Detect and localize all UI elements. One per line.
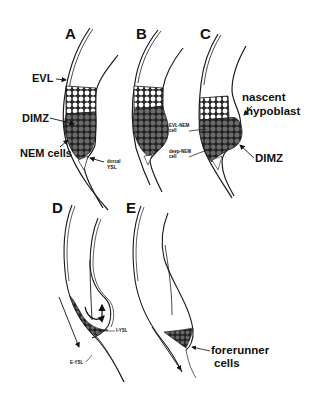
label-dimz-c: DIMZ: [255, 153, 283, 165]
label-dorsal-ysl: dorsal YSL: [107, 160, 121, 170]
label-nascent: nascent: [242, 92, 285, 104]
label-evl-nem-line2: cell: [169, 129, 189, 134]
panel-d: [59, 205, 124, 382]
panel-letter-e: E: [126, 200, 136, 215]
diagram-drawing: [0, 0, 310, 397]
figure: A B C D E EVL DIMZ NEM cells dorsal YSL …: [0, 0, 310, 397]
panel-letter-d: D: [52, 200, 63, 215]
label-evl: EVL: [32, 73, 53, 84]
panel-b: [132, 30, 183, 192]
label-cells: cells: [214, 358, 240, 370]
panel-c: [189, 34, 254, 198]
panel-letter-b: B: [136, 26, 147, 41]
panel-a: [50, 28, 118, 210]
label-forerunner: forerunner: [211, 345, 269, 357]
panel-letter-a: A: [65, 26, 76, 41]
label-deep-nem-line2: cell: [169, 155, 191, 160]
label-dimz-a: DIMZ: [22, 113, 49, 124]
label-i-ysl: I-YSL: [116, 329, 128, 334]
panel-e: [133, 206, 210, 378]
panel-letter-c: C: [200, 26, 211, 41]
label-nem-cells: NEM cells: [20, 148, 72, 159]
label-dorsal-ysl-line2: YSL: [107, 165, 121, 170]
label-evl-nem-cell: EVL-NEM cell: [169, 124, 189, 133]
label-e-ysl: E-YSL: [70, 361, 83, 366]
label-hypoblast: hypoblast: [246, 106, 300, 118]
label-deep-nem-cell: deep-NEM cell: [169, 150, 191, 159]
